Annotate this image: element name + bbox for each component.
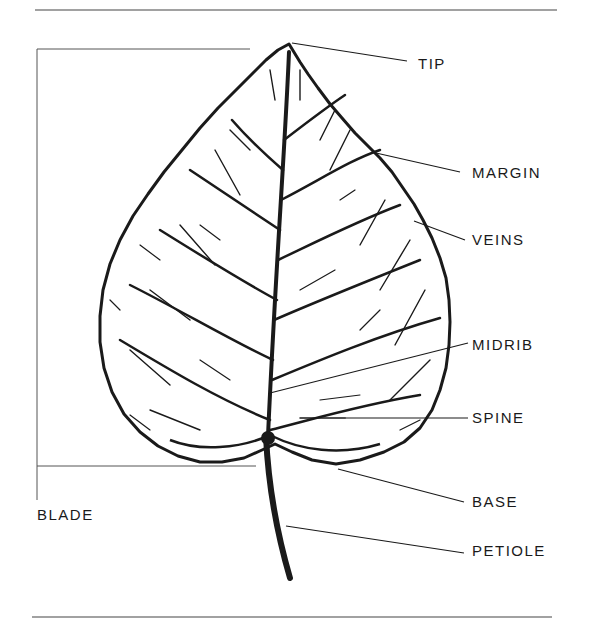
label-petiole: PETIOLE <box>472 543 546 558</box>
leader-petiole <box>286 526 464 553</box>
leader-base <box>338 469 464 502</box>
label-blade: BLADE <box>37 507 94 522</box>
label-veins: VEINS <box>472 232 525 247</box>
leaf-diagram: TIP MARGIN VEINS MIDRIB SPINE BASE PETIO… <box>0 0 592 622</box>
label-base: BASE <box>472 494 518 509</box>
leader-tip <box>292 43 407 61</box>
label-tip: TIP <box>418 56 446 71</box>
label-midrib: MIDRIB <box>472 337 534 352</box>
label-spine: SPINE <box>472 410 525 425</box>
petiole-stalk <box>266 436 290 578</box>
label-margin: MARGIN <box>472 165 541 180</box>
leaf-illustration <box>0 0 592 622</box>
